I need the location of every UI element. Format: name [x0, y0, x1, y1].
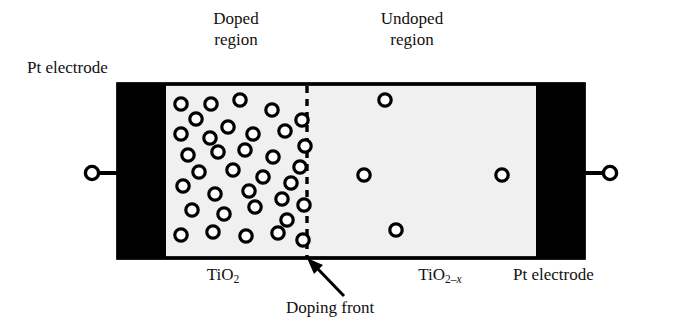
dopant-circle: [390, 224, 402, 236]
left-pt-electrode-block: [118, 84, 166, 258]
undoped-region-label-line2: region: [390, 30, 433, 49]
dopant-circle: [218, 208, 230, 220]
right-pt-electrode-block: [536, 84, 584, 258]
doping-front-arrow: [307, 258, 344, 296]
dopant-circle: [227, 164, 239, 176]
doped-region-label: Doped region: [213, 8, 258, 50]
left-terminal-node: [85, 166, 98, 179]
dopant-circle: [177, 180, 189, 192]
undoped-region-label-line1: Undoped: [381, 9, 443, 28]
tio2-label-text: TiO: [207, 265, 234, 284]
dopant-circle: [182, 149, 194, 161]
dopant-circle: [276, 193, 288, 205]
dopant-circle: [279, 125, 291, 137]
dopant-circle: [212, 146, 224, 158]
dopant-circle: [285, 177, 297, 189]
tio2x-label-text: TiO: [418, 265, 445, 284]
dopant-circle: [205, 98, 217, 110]
dopant-circle: [243, 185, 255, 197]
doped-region-label-line1: Doped: [213, 9, 258, 28]
dopant-circle: [267, 151, 279, 163]
dopant-circle: [175, 128, 187, 140]
dopant-circle: [204, 132, 216, 144]
dopant-circle: [193, 166, 205, 178]
dopant-circle: [175, 229, 187, 241]
tio2x-label: TiO2–x: [418, 264, 461, 290]
dopant-circle: [297, 234, 309, 246]
dopant-circle: [209, 188, 221, 200]
dopant-circle: [272, 227, 284, 239]
memristor-diagram: Doped region Undoped region Pt electrode…: [0, 0, 680, 333]
dopant-circle: [249, 201, 261, 213]
dopant-circle: [207, 226, 219, 238]
dopant-circle: [266, 104, 278, 116]
right-pt-electrode-label: Pt electrode: [513, 264, 594, 285]
left-pt-electrode-label: Pt electrode: [27, 57, 108, 78]
tio2-label-subscript: 2: [234, 273, 240, 285]
dopant-circle: [175, 98, 187, 110]
tio2-label: TiO2: [207, 264, 240, 290]
right-terminal-node: [603, 166, 616, 179]
doped-region-label-line2: region: [214, 30, 257, 49]
tio2x-label-subscript: 2–x: [445, 273, 462, 285]
undoped-region-label: Undoped region: [381, 8, 443, 50]
tio2x-subscript-variable: x: [457, 273, 462, 285]
dopant-circle: [294, 161, 306, 173]
dopant-circle: [496, 169, 508, 181]
dopant-circle: [299, 140, 311, 152]
dopant-circle: [298, 199, 310, 211]
dopant-circle: [257, 171, 269, 183]
dopant-circle: [222, 121, 234, 133]
dopant-circle: [281, 214, 293, 226]
dopant-circle: [247, 128, 259, 140]
dopant-circle: [296, 114, 308, 126]
dopant-circle: [358, 169, 370, 181]
doping-front-label: Doping front: [286, 297, 374, 318]
dopant-circle: [239, 144, 251, 156]
dopant-circle: [186, 204, 198, 216]
dopant-circle: [234, 94, 246, 106]
doping-front-arrow-shaft: [315, 266, 344, 296]
dopant-circle: [379, 94, 391, 106]
dopant-circle: [240, 230, 252, 242]
dopant-circle: [190, 113, 202, 125]
